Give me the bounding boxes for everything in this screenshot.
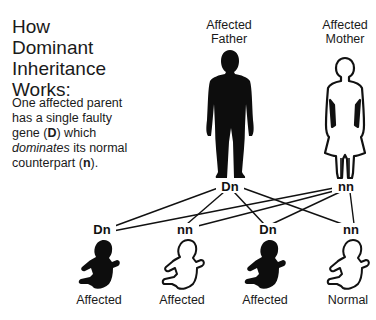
baby-outline-icon (325, 238, 371, 290)
child2-label: Affected (149, 293, 215, 307)
woman-outline-icon (320, 55, 370, 181)
child3-label: Affected (232, 293, 298, 307)
line-father-child3 (234, 192, 264, 224)
line-mother-child4 (350, 192, 354, 224)
man-silhouette-icon (205, 48, 255, 180)
baby-outline-icon (160, 238, 206, 290)
child4-label: Normal (315, 293, 376, 307)
father-genotype: Dn (216, 180, 244, 193)
child4-genotype: nn (337, 223, 365, 236)
child3-genotype: Dn (254, 223, 282, 236)
child2-genotype: nn (171, 223, 199, 236)
baby-silhouette-icon (76, 238, 122, 290)
child1-label: Affected (66, 293, 132, 307)
baby-silhouette-icon (242, 238, 288, 290)
mother-genotype: nn (332, 180, 360, 193)
child1-genotype: Dn (88, 223, 116, 236)
